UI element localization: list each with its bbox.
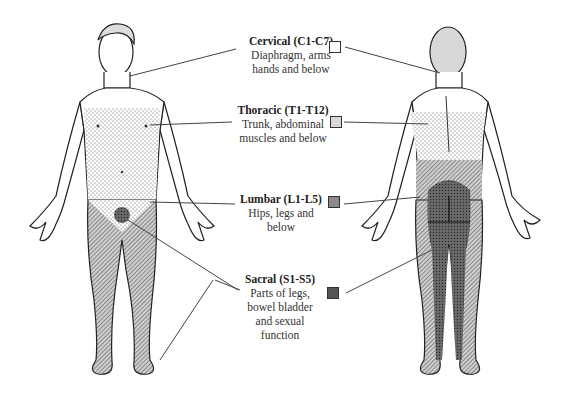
sacral-swatch bbox=[327, 287, 339, 299]
sacral-desc-line4: function bbox=[240, 328, 320, 342]
sacral-title: Sacral (S1-S5) bbox=[240, 272, 320, 286]
lumbar-title: Lumbar (L1-L5) bbox=[236, 192, 326, 206]
thoracic-desc-line1: Trunk, abdominal bbox=[228, 117, 338, 131]
front-figure bbox=[30, 24, 214, 374]
lumbar-desc-line1: Hips, legs and bbox=[236, 206, 326, 220]
legend-lumbar-label: Lumbar (L1-L5) Hips, legs and below bbox=[236, 192, 326, 234]
sacral-desc-line2: bowel bladder bbox=[240, 300, 320, 314]
lumbar-desc-line2: below bbox=[236, 220, 326, 234]
thoracic-title: Thoracic (T1-T12) bbox=[228, 103, 338, 117]
thoracic-desc-line2: muscles and below bbox=[228, 131, 338, 145]
cervical-swatch bbox=[329, 41, 341, 53]
sacral-desc-line1: Parts of legs, bbox=[240, 286, 320, 300]
legend-sacral-label: Sacral (S1-S5) Parts of legs, bowel blad… bbox=[240, 272, 320, 342]
back-figure bbox=[362, 27, 540, 374]
cervical-desc-line2: hands and below bbox=[236, 62, 346, 76]
lumbar-swatch bbox=[328, 196, 340, 208]
legend-thoracic-label: Thoracic (T1-T12) Trunk, abdominal muscl… bbox=[228, 103, 338, 145]
thoracic-swatch bbox=[330, 116, 342, 128]
sacral-desc-line3: and sexual bbox=[240, 314, 320, 328]
